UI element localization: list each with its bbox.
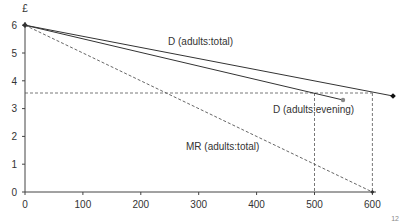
y-tick-label-1: 1 [11,159,17,170]
page-number-fragment: 12 [391,215,399,222]
mr-adults-total-label: MR (adults:total) [186,141,259,152]
x-tick-label-500: 500 [306,199,323,210]
x-tick-label-400: 400 [248,199,265,210]
x-tick-label-200: 200 [132,199,149,210]
x-tick-label-0: 0 [22,199,28,210]
demand-mr-chart: 0 1 2 3 4 5 6 £ 0 100 200 300 400 500 60… [0,0,401,222]
x-tick-label-300: 300 [190,199,207,210]
d-adults-evening-end-dot [341,98,345,102]
y-tick-label-5: 5 [11,48,17,59]
y-tick-label-3: 3 [11,103,17,114]
d-adults-total-end-diamond [390,93,396,99]
x-tick-label-600: 600 [364,199,381,210]
y-tick-label-2: 2 [11,131,17,142]
y-tick-label-0: 0 [11,187,17,198]
y-axis-unit: £ [22,3,28,14]
d-adults-total-label: D (adults:total) [168,36,233,47]
mr-zero-marker [370,190,374,194]
y-tick-label-6: 6 [11,20,17,31]
d-adults-evening-label: D (adults:evening) [273,104,354,115]
y-tick-label-4: 4 [11,76,17,87]
x-tick-label-100: 100 [75,199,92,210]
origin-price-marker [22,22,28,28]
